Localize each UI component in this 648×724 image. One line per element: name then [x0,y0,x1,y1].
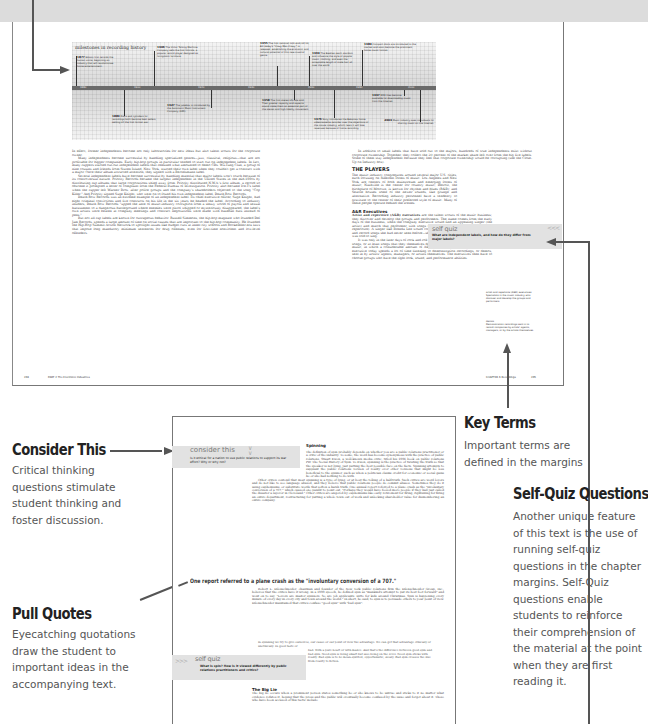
self-quiz-box-lower: >>> self quiz What is spin? How is it vi… [172,655,306,680]
callout-heading-self-quiz: Self-Quiz Questions [513,484,648,503]
paragraph: Other critics contend that most spinning… [252,479,444,503]
running-head-left: PART 2 The Electronic Industries [48,376,90,379]
paragraph: The music industry congregates around se… [352,174,457,206]
paragraph: But not all rap labels are known for out… [72,217,260,235]
callout-text-consider-this: Critical thinking questions stimulate st… [12,462,142,528]
margin-key-term: demos Demonstration recordings sent in t… [486,320,534,332]
big-lie-section: The Big Lie The big lie occurs when a pr… [252,688,444,703]
self-quiz-question: What are independent labels, and how do … [432,233,532,241]
timeline-tick [420,90,421,122]
block-quote: In spinning we try to give ourselves, ou… [258,641,438,648]
callout-text-pull-quotes: Eyecatching quotations draw the student … [12,626,152,692]
margin-key-term: artist and repertoire (A&R) executives S… [486,291,532,303]
paragraph: Death Row Records was an extreme example… [72,196,260,217]
key-term-definition: Specialists in the music industry who di… [486,294,532,303]
key-term-definition: Demonstration recordings sent in to reco… [486,323,534,332]
callout-heading-pull-quotes: Pull Quotes [12,604,92,623]
timeline-year: 1960 [308,86,314,90]
timeline-tick [154,51,155,86]
paragraph: In addition to small labels that have so… [352,150,532,164]
timeline-tick [334,90,335,118]
self-quiz-title: self quiz [432,225,558,233]
timeline-event: 1906 The Victor Talking Machine Company … [157,46,201,59]
spinning-text-continued: Robert L. Dilenschneider, chairman and f… [252,588,444,605]
timeline-callout-line-vertical [32,0,34,70]
chevrons-right-icon: >>> [175,657,187,664]
timeline-tick [211,90,212,108]
timeline-tick [124,90,125,116]
chevrons-left-icon: <<< [547,224,559,231]
timeline-year: 1980 [356,86,362,90]
timeline-year: 2000 [408,86,414,90]
timeline-callout-line-horizontal [32,69,62,71]
timeline-tick [277,66,278,86]
timeline-event: 1889 Discs and cylinders for recordings … [112,115,158,125]
page-number-right: 205 [531,376,536,379]
left-page-body-text: In effect, former independents become no… [72,150,260,235]
arrow-right-icon [60,66,70,74]
timeline-event: 1963 The Beatles reach stardom and influ… [312,52,358,68]
page-number-left: 204 [24,376,29,379]
recording-history-timeline: milestones in recording history 1880 190… [72,42,436,140]
timeline-tick [309,56,310,86]
section-heading-the-players: THE PLAYERS [352,168,532,172]
timeline-title: milestones in recording history [75,45,146,50]
timeline-event: 1927 The jukebox is introduced by the Au… [167,104,211,114]
paragraph: The definition of spin probably depends … [252,451,444,479]
callout-heading-consider-this: Consider This [12,440,106,459]
section-heading-spinning: Spinning [306,444,444,448]
pull-quote: One report referred to a plane crash as … [190,577,396,584]
key-terms-callout-line [507,350,509,408]
callout-heading-key-terms: Key Terms [464,413,536,432]
paragraph: Several independent labels have become s… [72,175,260,196]
consider-this-callout-line [110,450,162,452]
consider-this-title: consider this [190,446,235,454]
self-quiz-title: self quiz [195,655,220,663]
timeline-year: 1920 [198,86,204,90]
block-quote-continued: bad. With a pure heart or with malice. A… [308,649,438,663]
timeline-tick [362,50,363,86]
top-banner-strip [0,0,648,22]
timeline-event: 2003 Music industry sues individuals for… [382,119,434,126]
timeline-axis: 1880 1900 1920 1940 1960 1980 2000 [72,86,436,90]
arrow-up-icon [503,343,511,353]
spinning-text: The definition of spin probably depends … [252,451,444,503]
paragraph: Robert L. Dilenschneider, chairman and f… [252,588,444,605]
lower-page-body-text: Spinning [306,444,444,449]
callout-text-self-quiz: Another unique feature of this text is t… [513,508,648,690]
callout-text-key-terms: Important terms are defined in the margi… [464,437,594,470]
timeline-event: 1958 The first stereo LPs are sold. Thei… [262,99,310,112]
paragraph: The big lie occurs when a prominent pers… [252,692,444,702]
running-head-right: CHAPTER 6 Recordings [486,376,516,379]
timeline-year: 1940 [248,86,254,90]
timeline-year: 1900 [134,86,140,90]
self-quiz-question: What is spin? How is it viewed different… [200,664,300,672]
timeline-event: 1983 Compact discs are introduced to the… [364,43,418,53]
self-quiz-callout-line-horizontal [556,241,590,243]
timeline-event: 1997 MP3 files become available for down… [372,94,412,104]
timeline-event: 1976 Sony introduces the Betamax home vi… [314,118,372,131]
timeline-event: 1877 Edison first records the human voic… [77,56,119,69]
timeline-year: 1880 [80,86,86,90]
self-quiz-box: self quiz What are independent labels, a… [428,224,562,249]
paragraph: Many independents become successful by h… [72,157,260,175]
timeline-event: 1955 The first national rock-and-roll hi… [260,42,310,58]
arrow-left-icon [546,238,556,246]
